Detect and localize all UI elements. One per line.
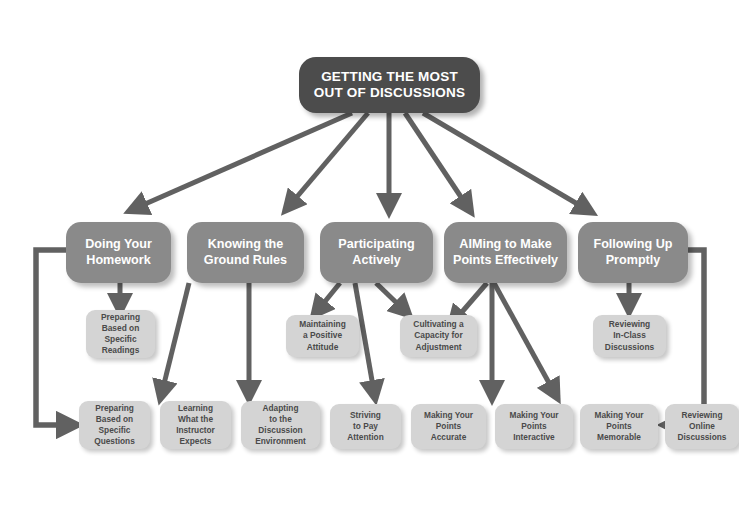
leaf-positive-attitude-l3: Attitude	[307, 342, 339, 352]
leaf-preparing-questions-l4: Questions	[94, 436, 135, 446]
root-node[interactable]: GETTING THE MOST OUT OF DISCUSSIONS	[299, 57, 480, 113]
leaf-preparing-readings-l3: Specific	[104, 334, 136, 344]
edge-root-groundrules	[290, 113, 368, 205]
edge-aim-memorable	[494, 283, 554, 392]
leaf-points-accurate-l1: Making Your	[424, 410, 473, 420]
leaf-positive-attitude-l2: a Positive	[303, 330, 342, 340]
leaf-node-points-interactive[interactable]: Making Your Points Interactive	[495, 404, 573, 449]
leaf-node-discussion-environment[interactable]: Adapting to the Discussion Environment	[241, 401, 320, 449]
leaf-node-reviewing-in-class[interactable]: Reviewing In-Class Discussions	[593, 315, 666, 357]
leaf-discussion-environment-l1: Adapting	[263, 403, 299, 413]
category-homework-line1: Doing Your	[85, 237, 152, 251]
edge-root-aiming	[405, 113, 467, 206]
leaf-reviewing-in-class-l2: In-Class	[613, 330, 646, 340]
leaf-reviewing-online-l2: Online	[689, 421, 715, 431]
leaf-points-memorable-l1: Making Your	[594, 410, 643, 420]
leaf-node-capacity-adjustment[interactable]: Cultivating a Capacity for Adjustment	[400, 315, 477, 357]
leaf-instructor-expects-l4: Expects	[180, 436, 212, 446]
leaf-positive-attitude-l1: Maintaining	[299, 319, 346, 329]
leaf-preparing-readings-l4: Readings	[102, 345, 140, 355]
leaf-reviewing-online-l1: Reviewing	[681, 410, 722, 420]
leaf-preparing-questions-l1: Preparing	[95, 403, 134, 413]
category-aiming-line2: Points Effectively	[453, 253, 558, 267]
category-participating-line1: Participating	[338, 237, 414, 251]
category-ground-rules-line1: Knowing the	[208, 237, 284, 251]
edge-root-followingup	[423, 113, 586, 209]
root-title-line2: OUT OF DISCUSSIONS	[314, 85, 465, 100]
leaf-preparing-questions-l3: Specific	[99, 425, 131, 435]
leaf-node-points-accurate[interactable]: Making Your Points Accurate	[411, 404, 486, 449]
category-ground-rules-line2: Ground Rules	[204, 253, 287, 267]
leaf-instructor-expects-l2: What the	[178, 414, 213, 424]
leaf-instructor-expects-l1: Learning	[178, 403, 213, 413]
leaf-pay-attention-l3: Attention	[347, 432, 383, 442]
leaf-discussion-environment-l4: Environment	[255, 436, 306, 446]
category-node-following-up[interactable]: Following Up Promptly	[578, 222, 688, 283]
leaf-points-interactive-l2: Points	[521, 421, 546, 431]
leaf-points-accurate-l3: Accurate	[431, 432, 467, 442]
leaf-instructor-expects-l3: Instructor	[176, 425, 215, 435]
leaf-node-positive-attitude[interactable]: Maintaining a Positive Attitude	[286, 315, 359, 357]
leaf-preparing-readings-l2: Based on	[102, 323, 140, 333]
leaf-points-interactive-l3: Interactive	[513, 432, 555, 442]
category-homework-line2: Homework	[86, 253, 150, 267]
leaf-points-memorable-l2: Points	[606, 421, 631, 431]
category-node-aiming[interactable]: AIMing to Make Points Effectively	[444, 222, 567, 283]
leaf-reviewing-in-class-l3: Discussions	[605, 342, 654, 352]
leaf-reviewing-in-class-l1: Reviewing	[609, 319, 650, 329]
category-participating-line2: Actively	[352, 253, 400, 267]
leaf-points-memorable-l3: Memorable	[597, 432, 641, 442]
edge-part-attitude	[318, 283, 340, 310]
root-title-line1: GETTING THE MOST	[321, 69, 458, 84]
leaf-node-pay-attention[interactable]: Striving to Pay Attention	[330, 404, 401, 449]
leaf-capacity-adjustment-l1: Cultivating a	[413, 319, 463, 329]
leaf-preparing-readings-l1: Preparing	[101, 312, 140, 322]
category-following-up-line2: Promptly	[606, 253, 661, 267]
leaf-capacity-adjustment-l2: Capacity for	[414, 330, 462, 340]
leaf-node-preparing-readings[interactable]: Preparing Based on Specific Readings	[86, 310, 155, 358]
leaf-preparing-questions-l2: Based on	[96, 414, 133, 424]
edge-part-capacity	[376, 283, 404, 310]
category-following-up-line1: Following Up	[593, 237, 672, 251]
edge-ground-instructor	[162, 283, 189, 392]
leaf-node-instructor-expects[interactable]: Learning What the Instructor Expects	[160, 401, 231, 449]
leaf-points-interactive-l1: Making Your	[509, 410, 558, 420]
category-node-ground-rules[interactable]: Knowing the Ground Rules	[187, 222, 304, 283]
leaf-points-accurate-l2: Points	[436, 421, 461, 431]
edge-root-homework	[136, 113, 352, 208]
category-node-participating[interactable]: Participating Actively	[320, 222, 433, 283]
leaf-node-reviewing-online[interactable]: Reviewing Online Discussions	[665, 404, 739, 449]
leaf-reviewing-online-l3: Discussions	[678, 432, 727, 442]
leaf-node-preparing-questions[interactable]: Preparing Based on Specific Questions	[79, 401, 150, 449]
leaf-discussion-environment-l2: to the	[269, 414, 292, 424]
leaf-discussion-environment-l3: Discussion	[258, 425, 302, 435]
leaf-capacity-adjustment-l3: Adjustment	[415, 342, 461, 352]
category-node-homework[interactable]: Doing Your Homework	[66, 222, 171, 283]
leaf-node-points-memorable[interactable]: Making Your Points Memorable	[580, 404, 658, 449]
category-aiming-line1: AIMing to Make	[459, 237, 551, 251]
leaf-pay-attention-l2: to Pay	[353, 421, 378, 431]
leaf-pay-attention-l1: Striving	[350, 410, 381, 420]
